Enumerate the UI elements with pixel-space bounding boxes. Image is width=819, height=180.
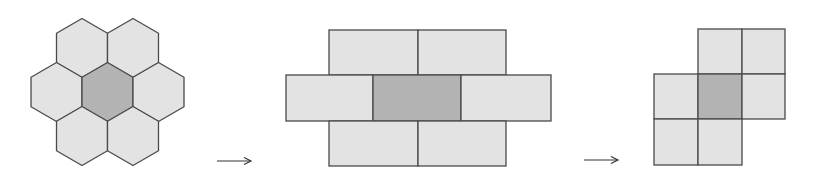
- center-square: [698, 74, 742, 119]
- diagram-canvas: [0, 0, 819, 180]
- brick-cell: [286, 75, 373, 121]
- square-cell: [742, 74, 785, 119]
- square-cell: [698, 29, 742, 74]
- brick-cell: [418, 30, 506, 75]
- square-cell: [698, 119, 742, 165]
- arrow-right-icon: [217, 158, 251, 165]
- square-cell: [654, 119, 698, 165]
- brick-cell: [329, 30, 418, 75]
- arrow-right-icon: [584, 157, 618, 164]
- brick-cell: [461, 75, 551, 121]
- brick-cell: [418, 121, 506, 166]
- hexagon-cluster: [31, 19, 184, 166]
- center-brick: [373, 75, 461, 121]
- square-grid-layout: [654, 29, 785, 165]
- square-cell: [742, 29, 785, 74]
- square-cell: [654, 74, 698, 119]
- brick-layout: [286, 30, 551, 166]
- brick-cell: [329, 121, 418, 166]
